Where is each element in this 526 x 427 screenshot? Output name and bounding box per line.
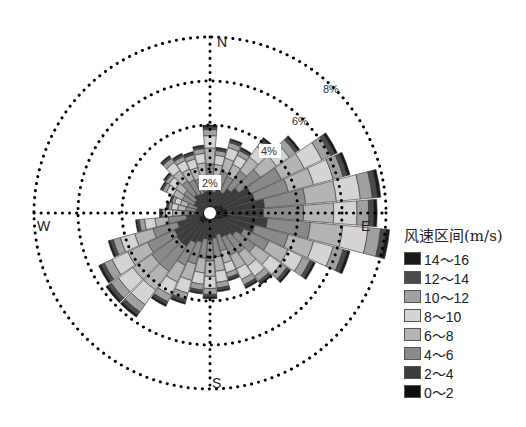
ring-label-4: 4% — [261, 145, 277, 157]
legend-item: 4～6 — [404, 344, 503, 363]
legend-swatch — [404, 252, 421, 265]
ring-label-6: 6% — [292, 115, 308, 127]
wind-rose-sectors — [99, 125, 390, 317]
legend-label: 6～8 — [424, 325, 454, 345]
legend-items: 14～1612～1410～128～106～84～62～40～2 — [404, 249, 503, 401]
legend-label: 0～2 — [424, 382, 454, 402]
ring-label-8: 8% — [323, 83, 339, 95]
direction-label-e: E — [361, 218, 370, 234]
legend: 风速区间(m/s) 14～1612～1410～128～106～84～62～40～… — [404, 224, 503, 401]
legend-item: 14～16 — [404, 249, 503, 268]
direction-label-n: N — [217, 34, 227, 50]
legend-label: 10～12 — [424, 287, 469, 307]
legend-label: 12～14 — [424, 268, 469, 288]
legend-swatch — [404, 271, 421, 284]
legend-swatch — [404, 347, 421, 360]
legend-swatch — [404, 385, 421, 398]
legend-swatch — [404, 309, 421, 322]
legend-item: 0～2 — [404, 382, 503, 401]
legend-item: 12～14 — [404, 268, 503, 287]
legend-title: 风速区间(m/s) — [404, 224, 503, 245]
legend-item: 6～8 — [404, 325, 503, 344]
legend-swatch — [404, 290, 421, 303]
legend-label: 4～6 — [424, 344, 454, 364]
legend-item: 2～4 — [404, 363, 503, 382]
legend-label: 8～10 — [424, 306, 461, 326]
direction-label-s: S — [212, 375, 221, 391]
direction-label-w: W — [37, 218, 51, 234]
legend-swatch — [404, 366, 421, 379]
legend-item: 10～12 — [404, 287, 503, 306]
legend-label: 14～16 — [424, 249, 469, 269]
legend-swatch — [404, 328, 421, 341]
center-hole — [204, 207, 216, 219]
legend-item: 8～10 — [404, 306, 503, 325]
ring-label-2: 2% — [202, 177, 218, 189]
legend-label: 2～4 — [424, 363, 454, 383]
